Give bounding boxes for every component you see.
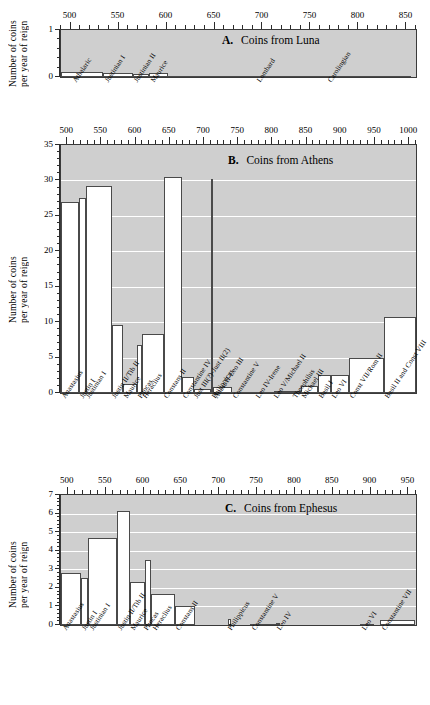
- x-axis-minor-tick: [135, 490, 136, 494]
- y-axis-minor-tick: [57, 378, 60, 379]
- y-axis-minor-tick: [57, 67, 60, 68]
- y-axis-major-tick: [55, 215, 60, 216]
- y-axis-minor-tick: [57, 501, 60, 502]
- y-axis-minor-tick: [57, 222, 60, 223]
- y-axis-minor-tick: [57, 576, 60, 577]
- x-axis-tick-label: 650: [198, 11, 230, 20]
- x-axis-tick-label: 750: [293, 11, 325, 20]
- x-axis-major-tick: [203, 137, 204, 144]
- x-axis-minor-tick: [74, 490, 75, 494]
- panel-a-coins-from-luna: Number of coins per year of reign 500550…: [0, 0, 430, 120]
- x-axis-minor-tick: [182, 140, 183, 144]
- y-axis-tick-label: 10: [37, 317, 53, 326]
- y-axis-minor-tick: [57, 583, 60, 584]
- y-axis-minor-tick: [57, 594, 60, 595]
- x-axis-minor-tick: [329, 25, 330, 29]
- y-axis-minor-tick: [57, 598, 60, 599]
- y-axis-label-line1: Number of coins: [8, 21, 18, 88]
- gridline: [61, 532, 416, 533]
- x-axis-tick-label: 950: [391, 476, 423, 485]
- x-axis-tick-label: 850: [316, 476, 348, 485]
- y-axis-label-line2: per year of reign: [19, 257, 29, 323]
- y-axis-minor-tick: [57, 201, 60, 202]
- x-axis-tick-label: 500: [50, 126, 82, 135]
- x-axis-minor-tick: [204, 25, 205, 29]
- y-axis-minor-tick: [57, 524, 60, 525]
- panel-a-title: A. Coins from Luna: [222, 34, 320, 46]
- y-axis-minor-tick: [57, 335, 60, 336]
- x-axis-minor-tick: [251, 140, 252, 144]
- y-axis-tick-label: 6: [37, 508, 53, 517]
- y-axis-minor-tick: [57, 208, 60, 209]
- x-axis-minor-tick: [195, 490, 196, 494]
- x-axis-minor-tick: [89, 25, 90, 29]
- x-axis-minor-tick: [162, 140, 163, 144]
- y-axis-minor-tick: [57, 158, 60, 159]
- x-axis-tick-label: 750: [221, 126, 253, 135]
- y-axis-tick-label: 30: [37, 175, 53, 184]
- x-axis-major-tick: [105, 487, 106, 494]
- x-axis-minor-tick: [290, 25, 291, 29]
- x-axis-minor-tick: [264, 490, 265, 494]
- y-axis-major-tick: [55, 392, 60, 393]
- x-axis-tick-label: 750: [240, 476, 272, 485]
- x-axis-major-tick: [237, 137, 238, 144]
- x-axis-minor-tick: [98, 25, 99, 29]
- x-axis-minor-tick: [354, 490, 355, 494]
- x-axis-minor-tick: [279, 490, 280, 494]
- x-axis-major-tick: [374, 137, 375, 144]
- y-axis-minor-tick: [57, 194, 60, 195]
- x-axis-minor-tick: [301, 490, 302, 494]
- x-axis-minor-tick: [203, 490, 204, 494]
- x-axis-minor-tick: [385, 490, 386, 494]
- x-axis-minor-tick: [248, 490, 249, 494]
- x-axis-minor-tick: [194, 25, 195, 29]
- y-axis-minor-tick: [57, 579, 60, 580]
- x-axis-minor-tick: [148, 140, 149, 144]
- y-axis-minor-tick: [57, 165, 60, 166]
- x-axis-minor-tick: [415, 490, 416, 494]
- y-axis-minor-tick: [57, 546, 60, 547]
- x-axis-tick-label: 900: [324, 126, 356, 135]
- x-axis-minor-tick: [394, 140, 395, 144]
- y-axis-tick-label: 0: [37, 620, 53, 629]
- y-axis-major-tick: [55, 76, 60, 77]
- panel-a-title-text: Coins from Luna: [236, 34, 320, 46]
- x-axis-minor-tick: [146, 25, 147, 29]
- y-axis-minor-tick: [57, 236, 60, 237]
- y-axis-label-line2: per year of reign: [19, 21, 29, 87]
- y-axis-minor-tick: [57, 620, 60, 621]
- x-axis-minor-tick: [60, 25, 61, 29]
- x-axis-minor-tick: [271, 25, 272, 29]
- x-axis-major-tick: [256, 487, 257, 494]
- panel-a-x-axis-top: 500550600650700750800850: [60, 22, 415, 29]
- x-axis-minor-tick: [271, 490, 272, 494]
- panel-a-y-axis-label: Number of coins per year of reign: [8, 18, 32, 90]
- x-axis-tick-label: 650: [153, 126, 185, 135]
- y-axis-minor-tick: [57, 385, 60, 386]
- bar: [164, 177, 182, 393]
- y-axis-major-tick: [55, 568, 60, 569]
- y-axis-tick-label: 5: [37, 527, 53, 536]
- y-axis-major-tick: [55, 587, 60, 588]
- y-axis-major-tick: [55, 531, 60, 532]
- panel-a-title-letter: A.: [222, 34, 233, 46]
- x-axis-minor-tick: [87, 140, 88, 144]
- x-axis-minor-tick: [90, 490, 91, 494]
- y-axis-minor-tick: [57, 57, 60, 58]
- x-axis-minor-tick: [155, 140, 156, 144]
- y-axis-major-tick: [55, 550, 60, 551]
- y-axis-minor-tick: [57, 257, 60, 258]
- y-axis-minor-tick: [57, 187, 60, 188]
- x-axis-tick-label: 700: [187, 126, 219, 135]
- x-axis-minor-tick: [176, 140, 177, 144]
- x-axis-minor-tick: [396, 25, 397, 29]
- x-axis-minor-tick: [347, 490, 348, 494]
- y-axis-minor-tick: [57, 613, 60, 614]
- x-axis-minor-tick: [188, 490, 189, 494]
- x-axis-minor-tick: [286, 490, 287, 494]
- y-axis-tick-label: 0: [37, 388, 53, 397]
- panel-c-title-text: Coins from Ephesus: [239, 502, 337, 514]
- panel-b-y-axis-label: Number of coins per year of reign: [8, 235, 32, 345]
- y-axis-label-line1: Number of coins: [8, 542, 18, 609]
